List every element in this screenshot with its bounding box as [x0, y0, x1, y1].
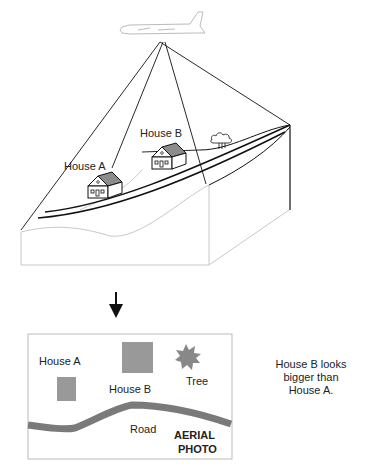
down-arrow-icon — [109, 292, 123, 318]
airplane-icon — [120, 12, 205, 34]
terrain-block — [21, 125, 290, 265]
photo-title-line1: AERIAL — [174, 430, 215, 441]
photo-house-b-label: House B — [109, 384, 151, 395]
diagram-canvas — [0, 0, 366, 474]
note-line-2: bigger than — [256, 371, 366, 384]
photo-title-line2: PHOTO — [178, 444, 217, 455]
photo-house-a-label: House A — [39, 356, 81, 367]
tree-icon — [211, 133, 232, 149]
photo-house-b-shape — [122, 342, 153, 373]
note-line-1: House B looks — [256, 358, 366, 371]
scene-house-b-label: House B — [140, 128, 182, 139]
photo-house-a-shape — [57, 377, 76, 401]
photo-road-label: Road — [130, 424, 156, 435]
comparison-note: House B looks bigger than House A. — [256, 358, 366, 397]
scene-house-a-label: House A — [64, 161, 106, 172]
house-a-icon — [88, 172, 122, 198]
house-b-icon — [152, 143, 186, 169]
photo-tree-label: Tree — [186, 376, 208, 387]
note-line-3: House A. — [256, 384, 366, 397]
